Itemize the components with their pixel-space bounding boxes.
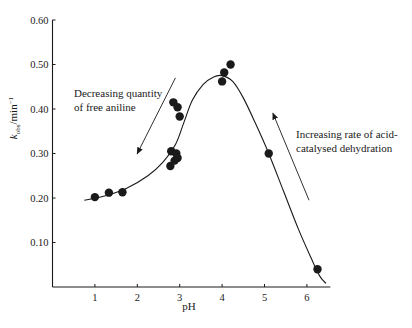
data-point <box>218 77 226 85</box>
annotation-left-text: Decreasing quantity <box>74 87 163 99</box>
data-point <box>91 193 99 201</box>
x-tick-label: 4 <box>219 292 225 303</box>
data-point <box>105 188 113 196</box>
y-tick-label: 0.50 <box>30 59 48 70</box>
x-tick-label: 2 <box>135 292 140 303</box>
annotation-right-arrow-icon <box>273 113 309 200</box>
data-point <box>176 112 184 120</box>
data-point <box>173 103 181 111</box>
x-axis-title: pH <box>182 300 196 312</box>
x-tick-label: 5 <box>262 292 267 303</box>
annotations: Decreasing quantityof free anilineIncrea… <box>74 78 398 200</box>
data-point <box>313 265 321 273</box>
annotation-right-text: catalysed dehydration <box>296 142 393 154</box>
ph-rate-profile-chart: 0.100.200.300.400.500.60123456 Decreasin… <box>0 0 412 328</box>
y-tick-label: 0.30 <box>30 148 48 159</box>
x-tick-label: 1 <box>92 292 97 303</box>
data-point <box>118 188 126 196</box>
data-point <box>166 162 174 170</box>
data-point <box>226 60 234 68</box>
y-tick-label: 0.40 <box>30 104 48 115</box>
y-tick-label: 0.10 <box>30 237 48 248</box>
annotation-right-text: Increasing rate of acid- <box>296 128 398 140</box>
y-tick-label: 0.60 <box>30 15 48 26</box>
y-tick-label: 0.20 <box>30 193 48 204</box>
x-tick-label: 6 <box>304 292 309 303</box>
y-axis-title: kobs/min−1 <box>7 96 22 139</box>
data-point <box>265 149 273 157</box>
annotation-left-text: of free aniline <box>74 101 136 113</box>
data-point <box>220 68 228 76</box>
